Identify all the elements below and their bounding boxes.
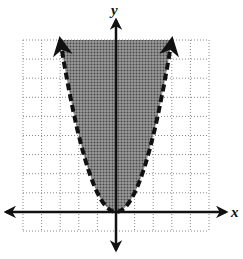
inequality-graph: x y: [0, 0, 243, 259]
y-axis-label: y: [109, 2, 118, 18]
x-axis-label: x: [230, 204, 239, 220]
